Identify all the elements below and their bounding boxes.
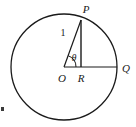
point-label-q: Q [122, 63, 130, 74]
geometry-diagram-svg [0, 0, 136, 127]
scan-artifact-mark [1, 107, 4, 111]
geometry-figure: P Q O R θ 1 [0, 0, 136, 127]
point-label-p: P [83, 4, 90, 15]
point-label-r: R [78, 73, 85, 84]
angle-label-theta: θ [72, 53, 77, 63]
radius-length-label: 1 [61, 28, 66, 38]
point-label-o: O [58, 73, 66, 84]
